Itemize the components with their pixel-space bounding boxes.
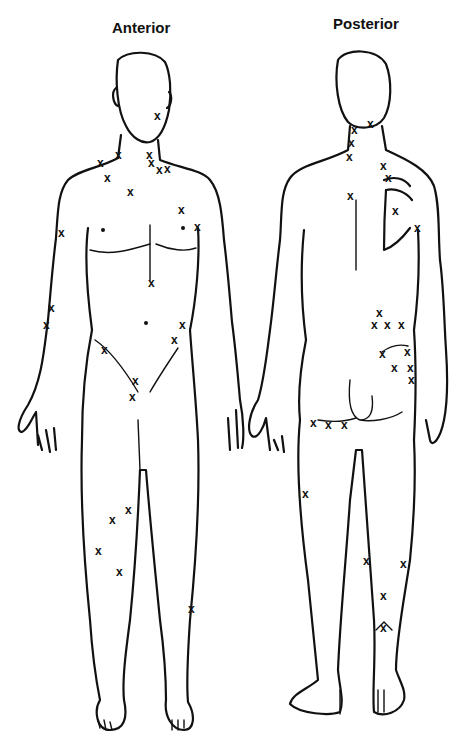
tender-point-marker: x xyxy=(379,347,386,361)
tender-point-marker: x xyxy=(116,565,123,579)
tender-point-marker: x xyxy=(404,345,411,359)
anterior-tender-points: xxxxxxxxxxxxxxxxxxxxxxxxx xyxy=(43,109,201,616)
tender-point-marker: x xyxy=(194,220,201,234)
tender-point-marker: x xyxy=(380,589,387,603)
tender-point-marker: x xyxy=(347,189,354,203)
tender-point-marker: x xyxy=(156,163,163,177)
tender-point-marker: x xyxy=(351,123,358,137)
tender-point-marker: x xyxy=(414,221,421,235)
tender-point-marker: x xyxy=(408,373,415,387)
tender-point-marker: x xyxy=(341,418,348,432)
tender-point-marker: x xyxy=(310,416,317,430)
tender-point-marker: x xyxy=(154,109,161,123)
tender-point-marker: x xyxy=(178,203,185,217)
tender-point-marker: x xyxy=(363,554,370,568)
tender-point-marker: x xyxy=(171,333,178,347)
tender-point-marker: x xyxy=(384,318,391,332)
tender-point-marker: x xyxy=(132,374,139,388)
tender-point-marker: x xyxy=(302,487,309,501)
body-chart: xxxxxxxxxxxxxxxxxxxxxxxxx xxxxxxxxxxxxxx… xyxy=(0,0,465,754)
tender-point-marker: x xyxy=(97,156,104,170)
tender-point-marker: x xyxy=(48,301,55,315)
tender-point-marker: x xyxy=(179,318,186,332)
tender-point-marker: x xyxy=(148,276,155,290)
tender-point-marker: x xyxy=(104,171,111,185)
tender-point-marker: x xyxy=(109,513,116,527)
tender-point-marker: x xyxy=(164,162,171,176)
tender-point-marker: x xyxy=(127,185,134,199)
tender-point-marker: x xyxy=(101,343,108,357)
tender-point-marker: x xyxy=(385,171,392,185)
tender-point-marker: x xyxy=(325,418,332,432)
tender-point-marker: x xyxy=(115,148,122,162)
tender-point-marker: x xyxy=(400,557,407,571)
tender-point-marker: x xyxy=(398,318,405,332)
tender-point-marker: x xyxy=(348,136,355,150)
tender-point-marker: x xyxy=(95,544,102,558)
tender-point-marker: x xyxy=(148,156,155,170)
tender-point-marker: x xyxy=(58,226,65,240)
tender-point-marker: x xyxy=(125,503,132,517)
tender-point-marker: x xyxy=(392,204,399,218)
posterior-tender-points: xxxxxxxxxxxxxxxxxxxxxxxxxx xyxy=(302,117,421,635)
tender-point-marker: x xyxy=(371,318,378,332)
tender-point-marker: x xyxy=(380,621,387,635)
tender-point-marker: x xyxy=(391,361,398,375)
tender-point-marker: x xyxy=(367,117,374,131)
tender-point-marker: x xyxy=(346,150,353,164)
tender-point-marker: x xyxy=(43,318,50,332)
tender-point-marker: x xyxy=(188,602,195,616)
tender-point-marker: x xyxy=(129,390,136,404)
